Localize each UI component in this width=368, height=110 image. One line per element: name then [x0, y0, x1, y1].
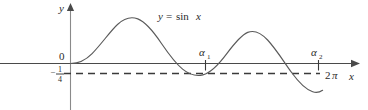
- figure-canvas: y x 0 y = sin x α 1 α 2 2 π – 1: [0, 0, 368, 110]
- x-axis-arrow-icon: [351, 60, 360, 67]
- origin-label: 0: [59, 50, 65, 62]
- alpha1-label: α 1: [199, 46, 211, 61]
- curve-equation-function: sin: [176, 10, 189, 22]
- two-pi-symbol: π: [332, 69, 338, 81]
- alpha2-label: α 2: [311, 46, 323, 61]
- fraction-numerator: 1: [58, 65, 62, 74]
- sine-curve-path: [71, 18, 323, 93]
- y-axis-label: y: [58, 2, 64, 14]
- alpha2-subscript: 2: [319, 53, 323, 61]
- two-pi-number: 2: [325, 69, 331, 81]
- y-axis: [67, 3, 74, 110]
- alpha1-subscript: 1: [207, 53, 211, 61]
- x-axis-label: x: [348, 70, 354, 82]
- curve-equation-y: y: [157, 10, 163, 22]
- fraction-minus-sign: –: [50, 67, 56, 76]
- two-pi-label: 2 π: [325, 69, 338, 81]
- sine-curve-figure: y x 0 y = sin x α 1 α 2 2 π – 1: [0, 0, 368, 110]
- curve-equation-equals: =: [166, 10, 172, 22]
- alpha1-symbol: α: [199, 46, 205, 58]
- curve-equation-variable: x: [195, 10, 201, 22]
- fraction-denominator: 4: [58, 75, 62, 84]
- minus-one-quarter-label: – 1 4: [50, 65, 64, 84]
- y-axis-arrow-icon: [67, 3, 74, 11]
- curve-equation-label: y = sin x: [157, 10, 201, 22]
- alpha2-symbol: α: [311, 46, 317, 58]
